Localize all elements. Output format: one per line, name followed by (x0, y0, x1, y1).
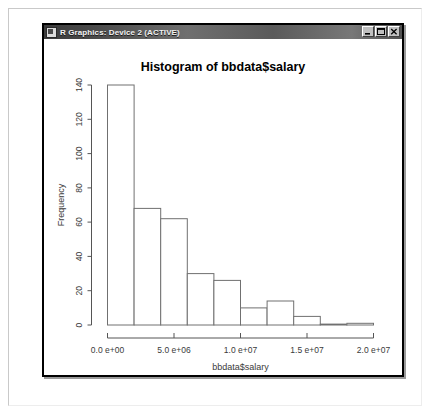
y-tick-label: 80 (74, 183, 84, 193)
window-titlebar[interactable]: R Graphics: Device 2 (ACTIVE) (44, 25, 402, 39)
histogram-bar (214, 280, 241, 325)
graphics-device-client-area: Histogram of bbdata$salary 0 20 40 60 80… (44, 39, 402, 375)
y-tick-label: 0 (74, 322, 84, 327)
histogram-bar (320, 324, 347, 325)
y-axis-title: Frequency (56, 183, 66, 226)
x-axis: 0.0 e+00 5.0 e+06 1.0 e+07 1.5 e+07 2.0 … (91, 333, 391, 372)
minimize-button[interactable] (362, 26, 374, 37)
y-axis: 0 20 40 60 80 100 120 140 Frequency (56, 78, 92, 328)
x-tick-label: 2.0 e+07 (357, 345, 391, 355)
x-tick-label: 0.0 e+00 (91, 345, 125, 355)
histogram-bars (108, 85, 374, 325)
y-tick-labels: 0 20 40 60 80 100 120 140 (74, 78, 84, 328)
histogram-bar (241, 308, 268, 325)
histogram-bar (267, 301, 294, 325)
window-title: R Graphics: Device 2 (ACTIVE) (60, 28, 180, 37)
r-graphics-icon (46, 27, 57, 38)
y-tick-marks (88, 85, 92, 325)
x-tick-labels: 0.0 e+00 5.0 e+06 1.0 e+07 1.5 e+07 2.0 … (91, 345, 391, 355)
x-tick-label: 1.5 e+07 (290, 345, 324, 355)
y-tick-label: 140 (74, 78, 84, 92)
histogram-bar (108, 85, 135, 325)
desktop-backdrop: R Graphics: Device 2 (ACTIVE) Histogram … (8, 8, 422, 406)
histogram-bar (161, 219, 188, 325)
x-tick-label: 1.0 e+07 (224, 345, 258, 355)
histogram-bar (134, 208, 161, 325)
x-axis-title: bbdata$salary (212, 362, 269, 372)
y-tick-label: 20 (74, 286, 84, 296)
close-button[interactable] (388, 26, 400, 37)
window-controls (362, 26, 400, 37)
histogram-bar (294, 316, 321, 325)
histogram-plot: Histogram of bbdata$salary 0 20 40 60 80… (44, 39, 402, 375)
maximize-button[interactable] (375, 26, 387, 37)
y-tick-label: 40 (74, 251, 84, 261)
y-tick-label: 100 (74, 146, 84, 160)
y-tick-label: 60 (74, 217, 84, 227)
y-tick-label: 120 (74, 112, 84, 126)
plot-title: Histogram of bbdata$salary (141, 60, 306, 74)
x-tick-label: 5.0 e+06 (157, 345, 191, 355)
histogram-bar (347, 323, 374, 325)
histogram-bar (187, 274, 214, 325)
r-graphics-window[interactable]: R Graphics: Device 2 (ACTIVE) Histogram … (42, 23, 404, 377)
